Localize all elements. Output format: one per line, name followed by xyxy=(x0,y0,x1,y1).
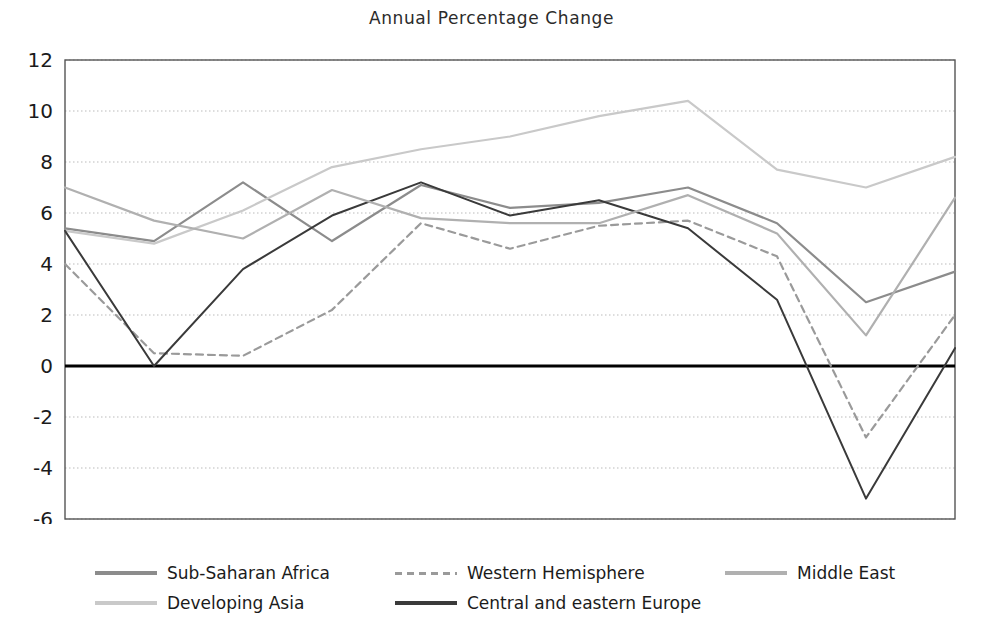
y-axis-label: 4 xyxy=(40,252,53,276)
legend-label: Central and eastern Europe xyxy=(467,593,701,613)
grid-lines xyxy=(65,60,955,519)
plot-frame xyxy=(65,60,955,519)
legend-label: Developing Asia xyxy=(167,593,304,613)
y-axis-label: -4 xyxy=(33,456,53,480)
chart-title: Annual Percentage Change xyxy=(0,8,983,28)
legend-swatch-icon xyxy=(95,601,157,605)
y-axis-label: 10 xyxy=(28,99,53,123)
plot-area: -6-4-2024681012 200020022004200620082010… xyxy=(0,44,983,524)
y-axis-label: 12 xyxy=(28,48,53,72)
legend-swatch-icon xyxy=(395,572,457,575)
legend-item[interactable]: Sub-Saharan Africa xyxy=(95,563,395,583)
legend-label: Western Hemisphere xyxy=(467,563,645,583)
y-axis-label: -2 xyxy=(33,405,53,429)
y-axis-label: 6 xyxy=(40,201,53,225)
chart-legend: Sub-Saharan AfricaWestern HemisphereMidd… xyxy=(95,558,965,618)
legend-swatch-icon xyxy=(395,601,457,605)
line-chart-svg: -6-4-2024681012 200020022004200620082010… xyxy=(0,44,983,524)
legend-item[interactable]: Middle East xyxy=(725,563,965,583)
y-axis-tick-labels: -6-4-2024681012 xyxy=(28,48,53,524)
legend-item[interactable]: Central and eastern Europe xyxy=(395,593,725,613)
legend-label: Sub-Saharan Africa xyxy=(167,563,330,583)
y-axis-label: 8 xyxy=(40,150,53,174)
legend-label: Middle East xyxy=(797,563,895,583)
legend-item[interactable]: Developing Asia xyxy=(95,593,395,613)
legend-item[interactable]: Western Hemisphere xyxy=(395,563,725,583)
legend-swatch-icon xyxy=(95,571,157,575)
series-lines xyxy=(65,101,955,499)
chart-page: Annual Percentage Change -6-4-2024681012… xyxy=(0,0,983,633)
y-axis-label: 2 xyxy=(40,303,53,327)
series-line-2 xyxy=(65,221,955,438)
legend-swatch-icon xyxy=(725,571,787,575)
y-axis-label: 0 xyxy=(40,354,53,378)
y-axis-label: -6 xyxy=(33,507,53,524)
